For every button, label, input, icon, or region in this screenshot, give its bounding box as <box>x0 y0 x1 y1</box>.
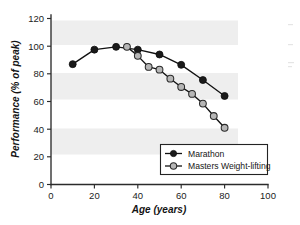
x-tick-label: 0 <box>48 190 53 201</box>
performance-vs-age-line-chart: 0 20 40 60 80 100 120 0 20 40 60 80 100 … <box>0 0 300 225</box>
legend-label-weightlifting: Masters Weight-lifting <box>188 161 271 171</box>
data-point <box>178 61 185 68</box>
plot-band-group <box>51 21 238 155</box>
data-point <box>178 84 185 91</box>
x-tick-label: 80 <box>219 190 230 201</box>
legend-marker-open-circle-icon <box>170 163 176 169</box>
data-point <box>69 61 76 68</box>
data-point <box>167 75 174 82</box>
data-point <box>91 46 98 53</box>
x-tick-label: 100 <box>260 190 276 201</box>
y-tick-label: 60 <box>33 96 44 107</box>
data-point <box>124 43 131 50</box>
x-tick-label: 60 <box>176 190 187 201</box>
x-tick-label: 20 <box>89 190 100 201</box>
legend-label-marathon: Marathon <box>188 149 225 159</box>
data-point <box>189 90 196 97</box>
data-point <box>134 52 141 59</box>
x-axis-title: Age (years) <box>131 204 187 215</box>
data-point <box>200 100 207 107</box>
y-tick-label: 100 <box>28 41 44 52</box>
data-point <box>113 43 120 50</box>
y-tick-label: 120 <box>28 13 44 24</box>
y-tick-label: 0 <box>39 179 44 190</box>
data-point <box>221 124 228 131</box>
chart-figure: 0 20 40 60 80 100 120 0 20 40 60 80 100 … <box>0 0 300 225</box>
y-tick-label: 80 <box>33 68 44 79</box>
plot-band <box>51 73 238 100</box>
y-tick-label: 40 <box>33 124 44 135</box>
data-point <box>210 113 217 120</box>
y-axis-title: Performance (% of peak) <box>10 40 21 158</box>
x-tick-label: 40 <box>133 190 144 201</box>
chart-legend: Marathon Masters Weight-lifting <box>161 145 271 175</box>
y-tick-label: 20 <box>33 151 44 162</box>
data-point <box>156 66 163 73</box>
data-point <box>221 92 228 99</box>
legend-marker-filled-circle-icon <box>170 150 176 156</box>
plot-band <box>51 21 238 46</box>
data-point <box>156 51 163 58</box>
data-point <box>199 77 206 84</box>
data-point <box>145 64 152 71</box>
